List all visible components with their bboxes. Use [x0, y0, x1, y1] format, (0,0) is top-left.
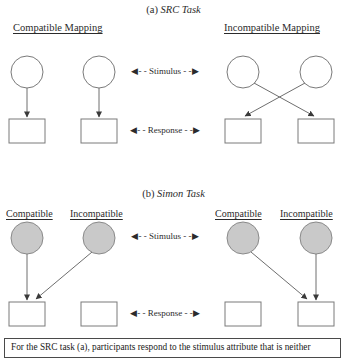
simon-left-response-box-left: [9, 302, 45, 326]
src-compatible-stimulus-circle-right: [83, 56, 115, 88]
caption-box: For the SRC task (a), participants respo…: [4, 338, 341, 358]
simon-left-incompatible-stimulus-circle: [83, 222, 115, 254]
caption-text: For the SRC task (a), participants respo…: [11, 342, 311, 352]
src-compatible-stimulus-circle-left: [11, 56, 43, 88]
src-incompatible-response-box-right: [298, 119, 334, 143]
simon-left-incompatible-arrow: [36, 252, 92, 299]
src-incompatible-mapping-arrow-right-to-left: [245, 83, 305, 116]
figure-canvas: (a) SRC Task Compatible Mapping Incompat…: [0, 0, 347, 360]
simon-left-response-box-right: [81, 302, 117, 326]
simon-right-response-box-left: [225, 302, 261, 326]
src-incompatible-mapping-arrow-left-to-right: [254, 83, 314, 116]
src-incompatible-response-box-left: [225, 119, 261, 143]
simon-right-compatible-stimulus-circle: [227, 222, 259, 254]
simon-right-compatible-arrow: [251, 252, 307, 299]
diagram-shapes: [0, 0, 347, 360]
simon-right-response-box-right: [298, 302, 334, 326]
simon-right-incompatible-stimulus-circle: [300, 222, 332, 254]
simon-left-compatible-stimulus-circle: [11, 222, 43, 254]
src-compatible-response-box-right: [81, 119, 117, 143]
src-compatible-response-box-left: [9, 119, 45, 143]
